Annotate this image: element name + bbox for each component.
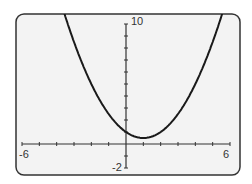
y-max-label: 10 <box>131 15 143 27</box>
y-min-label: -2 <box>112 161 122 173</box>
plot-frame <box>16 14 240 175</box>
x-min-label: -6 <box>19 148 29 160</box>
x-max-label: 6 <box>223 148 229 160</box>
graph-window: -6 6 10 -2 <box>0 0 252 184</box>
